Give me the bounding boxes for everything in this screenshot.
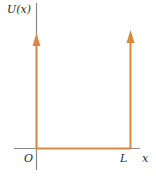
y-axis-label: U(x): [7, 4, 31, 15]
origin-label: O: [24, 153, 33, 164]
potential-well-diagram: [0, 0, 156, 176]
x-axis-label: x: [142, 153, 148, 164]
well-edge-label: L: [120, 153, 127, 164]
left-wall-arrowhead-icon: [33, 33, 41, 46]
right-wall-arrowhead-icon: [127, 30, 135, 43]
